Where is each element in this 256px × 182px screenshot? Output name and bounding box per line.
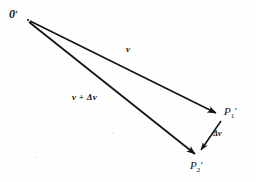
label-vector-v-plus-delta-v: v + Δv (72, 93, 97, 102)
label-point-p2-prime: ′ (200, 161, 202, 171)
label-origin-prime: ′ (15, 9, 18, 20)
label-point-p2: P2′ (190, 160, 202, 174)
vector-diagram-figure: 0′ v v + Δv Δv P1′ P2′ (0, 0, 256, 182)
label-vector-delta-v: Δv (213, 130, 222, 138)
label-vector-v: v (126, 45, 130, 54)
origin-vertex-dot (27, 19, 29, 21)
label-origin: 0′ (9, 8, 18, 20)
vector-v-plus-delta-v-line (29, 22, 195, 154)
label-point-p1-base: P (224, 105, 231, 117)
label-point-p1: P1′ (224, 106, 236, 120)
vector-diagram-canvas (0, 0, 256, 182)
vector-v-line (30, 21, 216, 113)
label-point-p1-prime: ′ (234, 107, 236, 117)
label-point-p2-base: P (190, 159, 197, 171)
